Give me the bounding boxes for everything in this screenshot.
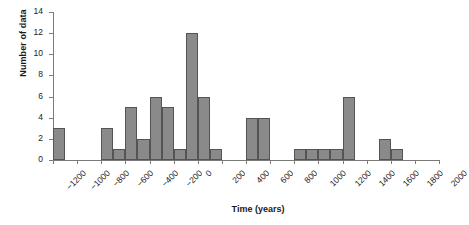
- x-tick-label--400: −400: [159, 168, 180, 189]
- x-tick-label-600: 600: [278, 168, 295, 185]
- x-tick-label-1200: 1200: [352, 168, 372, 188]
- histogram-bar: [186, 33, 198, 160]
- histogram-bar: [53, 128, 65, 160]
- x-tick-1000: [318, 160, 319, 164]
- y-tick-label-8: 8: [38, 69, 43, 80]
- x-tick-1600: [391, 160, 392, 164]
- x-tick-label--1200: −1200: [64, 168, 88, 192]
- x-tick-2000: [439, 160, 440, 164]
- x-tick-label-2000: 2000: [449, 168, 469, 188]
- histogram-bar: [150, 97, 162, 160]
- y-tick-4: 4: [49, 118, 53, 119]
- x-tick--1000: [77, 160, 78, 164]
- x-tick-label-1600: 1600: [400, 168, 420, 188]
- x-tick-800: [294, 160, 295, 164]
- x-tick-label-1400: 1400: [376, 168, 396, 188]
- y-tick-12: 12: [49, 33, 53, 34]
- histogram-bar: [379, 139, 391, 160]
- x-tick-label--1000: −1000: [88, 168, 112, 192]
- histogram-bar: [318, 149, 330, 160]
- x-tick-600: [270, 160, 271, 164]
- histogram-bar: [101, 128, 113, 160]
- x-tick-1400: [367, 160, 368, 164]
- y-tick-label-4: 4: [38, 112, 43, 123]
- x-tick-label--600: −600: [135, 168, 156, 189]
- x-tick-label-0: 0: [203, 168, 213, 178]
- x-tick-1800: [415, 160, 416, 164]
- x-tick-1200: [343, 160, 344, 164]
- x-tick-400: [246, 160, 247, 164]
- histogram-bar: [330, 149, 342, 160]
- histogram-bar: [174, 149, 186, 160]
- histogram-bar: [137, 139, 149, 160]
- histogram-bar: [198, 97, 210, 160]
- x-tick--200: [174, 160, 175, 164]
- y-tick-8: 8: [49, 75, 53, 76]
- y-tick-label-2: 2: [38, 133, 43, 144]
- x-tick--600: [125, 160, 126, 164]
- y-tick-label-12: 12: [34, 27, 43, 38]
- x-tick-200: [222, 160, 223, 164]
- histogram-bar: [391, 149, 403, 160]
- x-tick-label-1800: 1800: [424, 168, 444, 188]
- x-tick--1200: [53, 160, 54, 164]
- histogram-bar: [343, 97, 355, 160]
- histogram-bar: [113, 149, 125, 160]
- y-tick-6: 6: [49, 97, 53, 98]
- x-tick-label--200: −200: [183, 168, 204, 189]
- y-tick-label-10: 10: [34, 48, 43, 59]
- x-axis-title: Time (years): [0, 204, 456, 214]
- histogram-bar: [210, 149, 222, 160]
- histogram-bar: [258, 118, 270, 160]
- y-tick-label-0: 0: [38, 154, 43, 165]
- x-tick-label-200: 200: [230, 168, 247, 185]
- y-axis-title: Number of data: [18, 0, 28, 108]
- histogram-bar: [246, 118, 258, 160]
- histogram-bar: [125, 107, 137, 160]
- x-tick--400: [150, 160, 151, 164]
- x-tick-label-800: 800: [302, 168, 319, 185]
- y-tick-14: 14: [49, 12, 53, 13]
- histogram-bar: [294, 149, 306, 160]
- x-tick-label--800: −800: [111, 168, 132, 189]
- histogram-bar: [162, 107, 174, 160]
- x-tick--800: [101, 160, 102, 164]
- x-tick-label-400: 400: [254, 168, 271, 185]
- y-tick-10: 10: [49, 54, 53, 55]
- y-tick-label-14: 14: [34, 6, 43, 17]
- y-tick-label-6: 6: [38, 91, 43, 102]
- plot-area: 02468101214 −1200−1000−800−600−400−20002…: [53, 12, 439, 160]
- x-tick-label-1000: 1000: [328, 168, 348, 188]
- histogram-bar: [306, 149, 318, 160]
- x-tick-0: [198, 160, 199, 164]
